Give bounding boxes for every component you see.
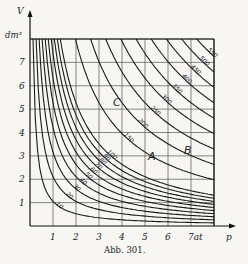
x-tick-label: 1 <box>50 232 56 242</box>
curve-label-350: 350 <box>171 82 184 95</box>
y-tick-label: 7 <box>19 57 25 67</box>
annotation-A: A <box>147 150 156 163</box>
curve-label-400: 400 <box>181 72 194 85</box>
curve-label-550: 550 <box>206 46 219 59</box>
annotation-B: B <box>184 144 192 157</box>
figure-caption: Abb. 301. <box>103 245 145 255</box>
curve-label-450: 450 <box>190 63 203 76</box>
y-tick-label: 2 <box>18 174 25 184</box>
isotherm-curve-60 <box>48 39 214 208</box>
isotherm-curves <box>33 39 214 223</box>
curve-label-30: 30 <box>72 182 82 192</box>
y-axis-label: V <box>17 6 25 16</box>
y-tick-label: 5 <box>19 104 25 114</box>
isotherm-chart: 1020304050607080901001502002503003504004… <box>0 0 248 264</box>
x-tick-label: 3 <box>96 232 102 242</box>
curve-label-200: 200 <box>137 116 150 129</box>
y-tick-label: 4 <box>18 128 25 138</box>
axes <box>28 10 237 229</box>
curve-label-300: 300 <box>161 92 174 105</box>
y-tick-label: 1 <box>19 198 25 208</box>
y-tick-label: 3 <box>19 151 25 161</box>
y-tick-label: 6 <box>19 81 25 91</box>
x-axis-arrow-icon <box>229 224 236 229</box>
x-tick-label: 6 <box>165 232 171 242</box>
y-unit-label: dm³ <box>5 30 23 40</box>
isotherm-curve-300 <box>121 39 214 134</box>
y-axis-arrow-icon <box>28 10 33 17</box>
x-tick-label: 4 <box>118 232 125 242</box>
x-axis-label: p <box>226 232 232 242</box>
isotherm-curve-200 <box>91 39 214 164</box>
isotherm-curve-400 <box>151 39 214 103</box>
curve-label-250: 250 <box>149 104 162 117</box>
isotherm-curve-20 <box>36 39 214 220</box>
x-tick-label: 5 <box>142 232 148 242</box>
curve-label-20: 20 <box>65 190 75 200</box>
x-tick-label: 2 <box>72 232 79 242</box>
curve-labels: 1020304050607080901001502002503003504004… <box>55 46 220 210</box>
annotation-C: C <box>113 96 121 109</box>
grid-lines <box>30 39 214 226</box>
x-tick-label: 7at <box>188 232 203 242</box>
curve-label-500: 500 <box>198 54 211 67</box>
